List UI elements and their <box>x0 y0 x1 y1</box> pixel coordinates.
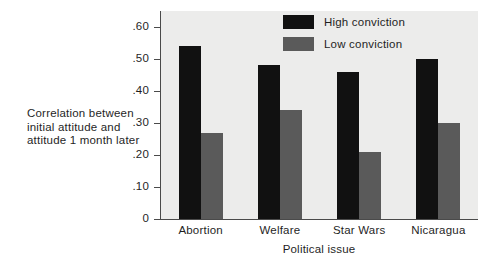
y-axis-title-line: attitude 1 month later <box>27 134 149 148</box>
legend-swatch-high-conviction <box>283 15 314 29</box>
bar-star-wars-low-conviction <box>359 152 381 219</box>
x-axis-title: Political issue <box>160 243 478 256</box>
bar-welfare-low-conviction <box>280 110 302 219</box>
y-tick-mark <box>154 27 161 28</box>
y-tick-label: .40 <box>132 85 149 97</box>
x-axis-line <box>160 219 478 220</box>
y-tick-label: .20 <box>132 149 149 161</box>
bar-abortion-high-conviction <box>179 46 201 219</box>
bar-nicaragua-high-conviction <box>416 59 438 219</box>
bar-abortion-low-conviction <box>201 133 223 219</box>
y-tick-label: .50 <box>132 53 149 65</box>
bar-chart-figure: 0.10.20.30.40.50.60 AbortionWelfareStar … <box>0 0 494 267</box>
y-tick-label: .60 <box>132 21 149 33</box>
y-tick-mark <box>154 187 161 188</box>
x-category-label: Nicaragua <box>378 224 494 237</box>
bar-welfare-high-conviction <box>258 65 280 219</box>
y-tick-label: 0 <box>142 213 149 225</box>
bar-star-wars-high-conviction <box>337 72 359 219</box>
y-tick-label: .10 <box>132 181 149 193</box>
y-axis-title-line: initial attitude and <box>27 121 149 135</box>
y-tick-mark <box>154 219 161 220</box>
bar-nicaragua-low-conviction <box>438 123 460 219</box>
y-tick-mark <box>154 155 161 156</box>
legend-label: High conviction <box>324 16 405 28</box>
legend-item: High conviction <box>283 15 405 29</box>
y-axis-title-line: Correlation between <box>27 107 149 121</box>
chart-legend: High convictionLow conviction <box>283 15 405 59</box>
y-tick-mark <box>154 59 161 60</box>
y-tick-mark <box>154 91 161 92</box>
legend-item: Low conviction <box>283 37 405 51</box>
legend-swatch-low-conviction <box>283 37 314 51</box>
y-tick-mark <box>154 123 161 124</box>
y-axis-title: Correlation betweeninitial attitude anda… <box>27 107 149 148</box>
legend-label: Low conviction <box>324 38 402 50</box>
